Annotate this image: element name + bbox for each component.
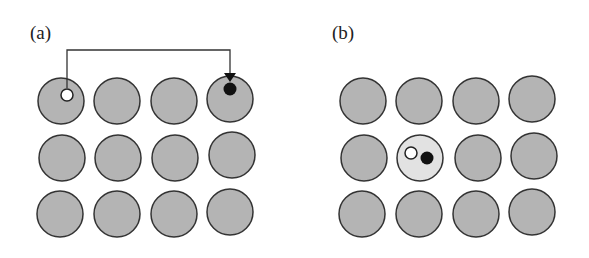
electron-icon [421, 152, 434, 165]
atom [340, 78, 386, 124]
transfer-arrow-line [67, 50, 230, 88]
atom [509, 76, 555, 122]
atom [453, 191, 499, 237]
atom [38, 78, 84, 124]
hole-icon [61, 89, 73, 101]
atom [95, 135, 141, 181]
atom [455, 135, 501, 181]
atom [209, 132, 255, 178]
atom [207, 189, 253, 235]
atom [396, 191, 442, 237]
atom [341, 135, 387, 181]
hole-icon [405, 147, 417, 159]
panel-a [37, 50, 255, 237]
atom [39, 135, 85, 181]
atom [509, 189, 555, 235]
atom [453, 78, 499, 124]
atom [94, 191, 140, 237]
atom [151, 78, 197, 124]
atom [339, 191, 385, 237]
atoms-b [339, 76, 557, 237]
lattice-diagram [0, 0, 589, 258]
excited-atom [397, 135, 443, 181]
panel-b [339, 76, 557, 237]
atom [37, 191, 83, 237]
atom [511, 133, 557, 179]
atom [94, 78, 140, 124]
electron-icon [224, 83, 237, 96]
atom [151, 191, 197, 237]
atom [152, 135, 198, 181]
atom [396, 78, 442, 124]
